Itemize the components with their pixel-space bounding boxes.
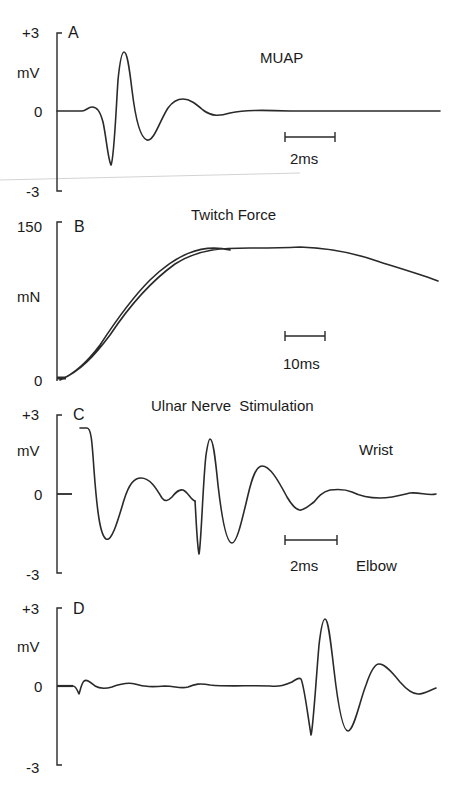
panel-b-y-unit-label: mN — [17, 288, 40, 305]
panel-c-wrist-trace — [80, 428, 195, 539]
panel-c-scale-bar-label: 2ms — [290, 557, 318, 574]
panel-a-title: MUAP — [260, 49, 303, 66]
panel-b-scale-bar-label: 10ms — [283, 355, 320, 372]
panel-d-y-zero-label: 0 — [34, 678, 42, 695]
panel-a-y-zero-label: 0 — [34, 103, 42, 120]
scan-artifact-line — [0, 173, 300, 180]
figure-canvas: +3 mV 0 -3 A MUAP 2ms 150 mN 0 B Twitch … — [0, 0, 457, 787]
panel-c-wrist-label: Wrist — [359, 441, 394, 458]
panel-b-scale-bar — [285, 331, 325, 341]
panel-a-letter: A — [68, 24, 79, 41]
panel-a-scale-bar — [285, 132, 335, 142]
panel-d-y-unit-label: mV — [17, 638, 40, 655]
panel-c-letter: C — [73, 406, 85, 423]
panel-a: +3 mV 0 -3 A MUAP 2ms — [17, 24, 440, 200]
panel-c-y-zero-label: 0 — [34, 486, 42, 503]
panel-c-title: Ulnar Nerve Stimulation — [151, 397, 314, 414]
panel-c-elbow-trace — [195, 439, 436, 554]
panel-a-muap-trace — [57, 52, 440, 165]
panel-a-y-unit-label: mV — [17, 64, 40, 81]
panel-b-letter: B — [74, 218, 85, 235]
panel-d-letter: D — [73, 600, 85, 617]
panel-c-y-unit-label: mV — [17, 442, 40, 459]
panel-d-trace — [73, 619, 436, 735]
panel-b-twitch-force-trace — [60, 247, 438, 380]
panel-c-elbow-label: Elbow — [356, 557, 397, 574]
panel-d-y-bottom-label: -3 — [26, 759, 39, 776]
panel-b-y-zero-label: 0 — [34, 372, 42, 389]
panel-d-y-top-label: +3 — [22, 600, 39, 617]
panel-c: +3 mV 0 -3 C Ulnar Nerve Stimulation Wri… — [17, 397, 436, 583]
panel-a-y-axis — [57, 33, 62, 191]
panel-b-y-axis — [57, 222, 62, 381]
panel-a-y-top-label: +3 — [22, 24, 39, 41]
panel-c-y-bottom-label: -3 — [26, 566, 39, 583]
panel-b: 150 mN 0 B Twitch Force 10ms — [17, 206, 438, 389]
panel-a-y-bottom-label: -3 — [26, 183, 39, 200]
panel-b-y-top-label: 150 — [17, 218, 42, 235]
panel-a-scale-bar-label: 2ms — [290, 150, 318, 167]
panel-c-y-top-label: +3 — [22, 406, 39, 423]
panel-d: +3 mV 0 -3 D — [17, 600, 436, 776]
panel-b-title: Twitch Force — [191, 206, 276, 223]
panel-c-scale-bar — [285, 535, 337, 545]
